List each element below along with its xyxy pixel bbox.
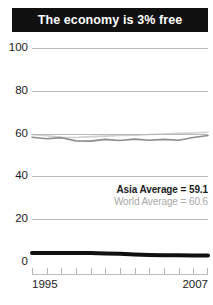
x-axis-tick [32, 268, 33, 274]
chart-area: 100806040200 1995 2007 Asia Average = 59… [0, 36, 213, 305]
y-axis-labels: 100806040200 [0, 48, 28, 262]
chart-legend: Asia Average = 59.1 World Average = 60.6 [60, 184, 208, 208]
x-axis-ticks [32, 268, 208, 274]
x-axis-tick [91, 268, 92, 274]
y-axis-tick-label: 60 [2, 128, 28, 139]
series-lines [32, 48, 208, 262]
y-axis-tick-label: 100 [2, 42, 28, 53]
gridline [32, 219, 208, 220]
gridline [32, 48, 208, 49]
y-axis-tick-label: 0 [2, 256, 28, 267]
plot-region [32, 48, 208, 262]
legend-item-asia-average: Asia Average = 59.1 [60, 184, 208, 196]
x-axis-tick [193, 268, 194, 274]
y-axis-tick-label: 20 [2, 213, 28, 224]
x-axis-tick [207, 268, 208, 274]
x-axis-tick [47, 268, 48, 274]
x-axis-tick [105, 268, 106, 274]
x-axis-tick [120, 268, 121, 274]
x-axis-tick [135, 268, 136, 274]
page-title: The economy is 3% free [38, 13, 183, 27]
series-line-country [32, 253, 208, 256]
gridline [32, 176, 208, 177]
y-axis-tick-label: 40 [2, 170, 28, 181]
x-axis-tick [164, 268, 165, 274]
gridline [32, 91, 208, 92]
x-axis-start-label: 1995 [32, 278, 58, 290]
x-axis-tick [61, 268, 62, 274]
chart-title-banner: The economy is 3% free [12, 8, 208, 32]
x-axis-tick [149, 268, 150, 274]
x-axis-end-label: 2007 [182, 278, 208, 290]
x-axis-labels: 1995 2007 [32, 278, 208, 294]
gridline [32, 134, 208, 135]
legend-item-world-average: World Average = 60.6 [60, 196, 208, 208]
x-axis-tick [179, 268, 180, 274]
x-axis-line [32, 274, 208, 275]
x-axis-tick [76, 268, 77, 274]
y-axis-tick-label: 80 [2, 85, 28, 96]
